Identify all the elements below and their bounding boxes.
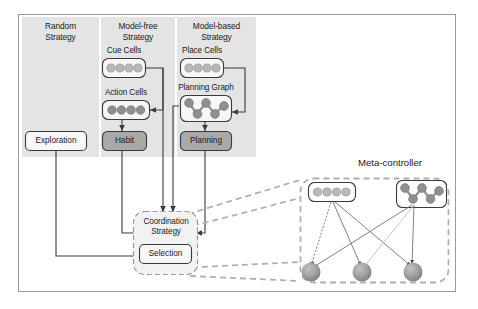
cue-cells-label: Cue Cells [97, 46, 151, 56]
coordination-strategy-label: Coordination Strategy [134, 217, 198, 237]
meta-output-node [353, 263, 372, 282]
meta-graph-node [409, 195, 418, 204]
column-title-random: Random Strategy [22, 21, 99, 42]
callout-bottom-a [182, 262, 300, 268]
planning-box [181, 132, 232, 151]
graph-node [220, 102, 229, 111]
graph-node [193, 110, 202, 119]
place-cell [194, 64, 202, 72]
place-cell [203, 64, 211, 72]
cue-cell [107, 64, 115, 72]
place-cells-label: Place Cells [175, 46, 229, 56]
meta-graph-node [401, 184, 410, 193]
callout-mid [193, 198, 300, 226]
exploration-box [26, 132, 87, 151]
place-cell [185, 64, 193, 72]
meta-output-node [404, 263, 423, 282]
action-cell [108, 106, 117, 115]
planning-graph-label: Planning Graph [170, 83, 242, 93]
figure-root: Random Strategy Model-free Strategy Mode… [0, 0, 478, 309]
action-cell [136, 106, 145, 115]
meta-graph-node [435, 187, 444, 196]
meta-graph-node [418, 184, 427, 193]
meta-input-cell [332, 188, 340, 196]
action-cells-label: Action Cells [97, 88, 155, 98]
meta-graph-node [426, 195, 435, 204]
meta-output-node [302, 263, 321, 282]
column-title-model-free: Model-free Strategy [101, 21, 175, 42]
cue-cell [116, 64, 124, 72]
place-cell [212, 64, 220, 72]
meta-input-cell [342, 188, 350, 196]
selection-box [140, 245, 192, 264]
diagram-canvas [0, 0, 478, 309]
meta-connections [311, 202, 414, 268]
action-cell [117, 106, 126, 115]
graph-node [185, 99, 194, 108]
cue-cell [134, 64, 142, 72]
meta-input-cell [323, 188, 331, 196]
meta-input-cell [313, 188, 321, 196]
callout-bottom-b [190, 276, 300, 281]
graph-node [211, 110, 220, 119]
graph-node [202, 99, 211, 108]
action-cell [127, 106, 136, 115]
column-title-model-based: Model-based Strategy [177, 21, 256, 42]
cue-cell [125, 64, 133, 72]
meta-controller-title: Meta-controller [325, 158, 455, 168]
habit-box [103, 132, 147, 151]
edge-exploration-to-selection [56, 150, 140, 256]
